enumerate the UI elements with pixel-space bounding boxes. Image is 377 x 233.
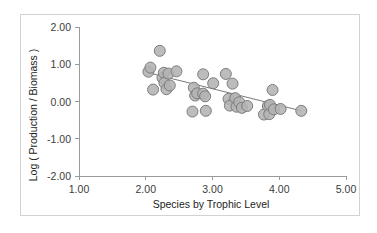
data-point bbox=[154, 45, 165, 56]
data-points bbox=[143, 45, 307, 120]
data-point bbox=[145, 62, 156, 73]
chart-figure: 2.001.000.00-1.00-2.001.002.003.004.005.… bbox=[20, 14, 360, 216]
data-point bbox=[198, 69, 209, 80]
y-tick-label: -1.00 bbox=[47, 133, 71, 145]
data-point bbox=[296, 105, 307, 116]
y-axis-title: Log ( Production / Biomass ) bbox=[27, 49, 39, 181]
data-point bbox=[187, 106, 198, 117]
y-tick-label: -2.00 bbox=[47, 170, 71, 182]
data-point bbox=[275, 103, 286, 114]
data-point bbox=[200, 91, 211, 102]
x-tick-label: 2.00 bbox=[136, 183, 157, 195]
y-tick-label: 2.00 bbox=[51, 21, 72, 33]
data-point bbox=[267, 84, 278, 95]
data-point bbox=[171, 66, 182, 77]
data-point bbox=[164, 80, 175, 91]
scatter-plot: 2.001.000.00-1.00-2.001.002.003.004.005.… bbox=[21, 15, 359, 215]
axes bbox=[75, 27, 346, 180]
x-axis-title: Species by Trophic Level bbox=[153, 198, 270, 210]
x-tick-label: 4.00 bbox=[269, 183, 290, 195]
y-tick-label: 1.00 bbox=[51, 58, 72, 70]
y-tick-label: 0.00 bbox=[51, 96, 72, 108]
data-point bbox=[200, 105, 211, 116]
data-point bbox=[227, 78, 238, 89]
data-point bbox=[148, 84, 159, 95]
data-point bbox=[220, 68, 231, 79]
data-point bbox=[208, 78, 219, 89]
x-tick-label: 3.00 bbox=[202, 183, 223, 195]
x-tick-label: 1.00 bbox=[69, 183, 90, 195]
data-point bbox=[242, 100, 253, 111]
x-tick-label: 5.00 bbox=[336, 183, 357, 195]
